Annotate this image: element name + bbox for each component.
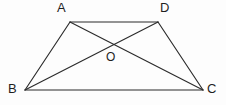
vertex-label-b: B [8,82,17,95]
segment-dc [158,22,203,90]
vertex-label-d: D [160,1,169,14]
vertex-label-a: A [57,1,66,14]
segment-bd-diagonal [25,22,158,90]
intersection-label-o: O [106,51,115,63]
segment-ab [25,22,70,90]
vertex-label-c: C [207,82,216,95]
segment-ac-diagonal [70,22,203,90]
geometry-diagram: A D B C O [0,0,226,105]
